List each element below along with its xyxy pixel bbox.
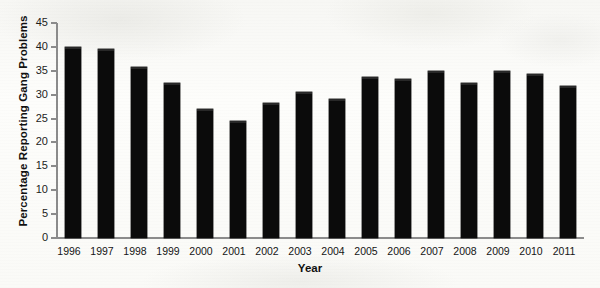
- y-axis-tick-label: 15: [26, 160, 48, 171]
- bar-slot: [457, 23, 487, 238]
- x-axis-tick-label: 2011: [547, 246, 581, 257]
- bar-top-highlight: [263, 103, 279, 105]
- y-axis-tick-label: 20: [26, 136, 48, 147]
- bar-slot: [424, 23, 454, 238]
- y-axis-tick-label: 30: [26, 89, 48, 100]
- y-axis-tick-label: 45: [26, 17, 48, 28]
- bar-slot: [226, 23, 256, 238]
- x-axis-title: Year: [0, 262, 600, 274]
- bar-top-highlight: [494, 71, 510, 73]
- bar-top-highlight: [230, 121, 246, 123]
- bar-top-highlight: [164, 83, 180, 85]
- y-axis-tick-label: 40: [26, 41, 48, 52]
- bar-chart: Percentage Reporting Gang Problems 05101…: [0, 0, 600, 288]
- x-axis-tick-label: 2010: [514, 246, 548, 257]
- x-axis-tick-label: 1998: [118, 246, 152, 257]
- bar: [461, 83, 477, 238]
- y-axis-tick-label-wrap: 40: [0, 41, 48, 52]
- x-axis-tick-label: 1999: [151, 246, 185, 257]
- bar-slot: [556, 23, 586, 238]
- bar-top-highlight: [461, 83, 477, 85]
- plot-area: [56, 23, 584, 238]
- x-axis-tick-label: 2000: [184, 246, 218, 257]
- bar: [527, 74, 543, 238]
- bar-top-highlight: [197, 109, 213, 111]
- bar-slot: [193, 23, 223, 238]
- x-axis-tick-label: 2001: [217, 246, 251, 257]
- bar: [428, 71, 444, 238]
- x-axis-tick-label: 2004: [316, 246, 350, 257]
- x-axis-tick-label: 1996: [52, 246, 86, 257]
- y-axis-tick-label-wrap: 45: [0, 17, 48, 28]
- bar-slot: [94, 23, 124, 238]
- bar-top-highlight: [560, 86, 576, 88]
- bar: [296, 92, 312, 238]
- x-axis-tick-label: 2005: [349, 246, 383, 257]
- bar: [362, 77, 378, 238]
- x-axis-tick-label: 2002: [250, 246, 284, 257]
- bar-slot: [358, 23, 388, 238]
- bar-top-highlight: [527, 74, 543, 76]
- bar-top-highlight: [98, 49, 114, 51]
- bar-top-highlight: [428, 71, 444, 73]
- y-axis-tick-label-wrap: 20: [0, 136, 48, 147]
- y-axis-tick-label-wrap: 25: [0, 113, 48, 124]
- bar: [131, 67, 147, 238]
- bar-top-highlight: [395, 79, 411, 81]
- bar: [494, 71, 510, 238]
- x-axis-tick-label: 2006: [382, 246, 416, 257]
- y-axis-tick-label-wrap: 15: [0, 160, 48, 171]
- bar-slot: [325, 23, 355, 238]
- bar-slot: [523, 23, 553, 238]
- y-axis-tick-label: 25: [26, 113, 48, 124]
- bar-top-highlight: [362, 77, 378, 79]
- bar: [329, 99, 345, 239]
- y-axis-tick-label: 5: [26, 208, 48, 219]
- bar-slot: [490, 23, 520, 238]
- bar: [164, 83, 180, 238]
- y-axis-tick-label-wrap: 35: [0, 65, 48, 76]
- bar: [263, 103, 279, 238]
- bar: [230, 121, 246, 238]
- bar-top-highlight: [296, 92, 312, 94]
- bar: [197, 109, 213, 238]
- bar-slot: [391, 23, 421, 238]
- x-axis-tick-label: 1997: [85, 246, 119, 257]
- y-axis-tick-label: 35: [26, 65, 48, 76]
- bar-top-highlight: [65, 47, 81, 49]
- y-axis-tick-label-wrap: 5: [0, 208, 48, 219]
- y-axis-tick-label-wrap: 10: [0, 184, 48, 195]
- bar-top-highlight: [131, 67, 147, 69]
- bar: [65, 47, 81, 238]
- x-axis-tick-label: 2007: [415, 246, 449, 257]
- bar-slot: [61, 23, 91, 238]
- bar: [560, 86, 576, 238]
- bar-slot: [259, 23, 289, 238]
- bar-slot: [127, 23, 157, 238]
- x-axis-tick-label: 2008: [448, 246, 482, 257]
- bar-slot: [160, 23, 190, 238]
- y-axis-tick-label: 0: [26, 232, 48, 243]
- y-axis-tick-label-wrap: 0: [0, 232, 48, 243]
- bar-top-highlight: [329, 99, 345, 101]
- y-axis-tick-label: 10: [26, 184, 48, 195]
- y-axis-tick-label-wrap: 30: [0, 89, 48, 100]
- bar-slot: [292, 23, 322, 238]
- bar: [395, 79, 411, 238]
- x-axis-tick-label: 2003: [283, 246, 317, 257]
- bar: [98, 49, 114, 238]
- x-axis-tick-label: 2009: [481, 246, 515, 257]
